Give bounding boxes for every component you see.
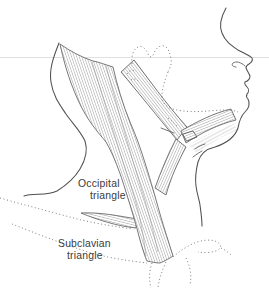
subclavian-triangle-label-line2: triangle: [67, 250, 103, 261]
mandible-dotted-line: [162, 72, 238, 112]
omohyoid-superior-belly-muscle: [155, 139, 186, 195]
trapezius-border-dotted-line: [0, 198, 133, 229]
occipital-triangle-label-line1: Occipital: [78, 178, 120, 189]
occipital-triangle-label: Occipital triangle: [78, 178, 126, 201]
clavicle-right-dotted-line: [221, 248, 231, 255]
sternum-dotted-line: [186, 258, 191, 285]
clavicle-right-dotted-line: [173, 240, 221, 257]
nostril-line: [232, 62, 245, 67]
occipital-triangle-label-line2: triangle: [90, 190, 126, 201]
subclavian-triangle-label: Subclavian triangle: [58, 238, 111, 261]
sternum-dotted-line: [150, 263, 152, 288]
subclavian-triangle-label-line1: Subclavian: [58, 238, 111, 249]
neck-triangles-illustration: Occipital triangle Subclavian triangle: [0, 0, 269, 288]
sternocleidomastoid-muscle: [60, 44, 173, 263]
sternum-dotted-line: [158, 262, 166, 288]
neck-triangles-figure: Occipital triangle Subclavian triangle: [0, 0, 269, 288]
